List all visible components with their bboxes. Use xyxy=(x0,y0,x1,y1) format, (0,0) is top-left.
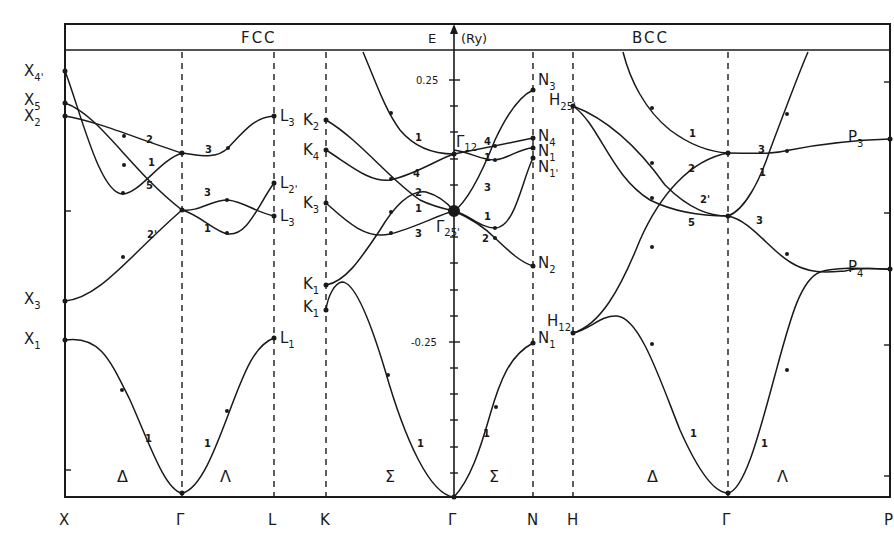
svg-text:Δ: Δ xyxy=(647,467,658,486)
fcc-x-labels: X4' X5 X2 X3 X1 xyxy=(24,62,43,351)
svg-text:3: 3 xyxy=(756,215,763,226)
svg-text:1: 1 xyxy=(690,428,697,439)
energy-axis xyxy=(65,24,890,497)
svg-text:2: 2 xyxy=(482,233,489,244)
svg-text:Γ25': Γ25' xyxy=(436,218,460,238)
fcc-bands xyxy=(65,52,454,497)
svg-text:K2: K2 xyxy=(303,111,319,132)
svg-text:2: 2 xyxy=(688,163,695,174)
svg-text:1: 1 xyxy=(689,128,696,139)
svg-text:2': 2' xyxy=(700,194,710,205)
svg-text:3: 3 xyxy=(484,182,491,193)
svg-text:L1: L1 xyxy=(280,329,295,350)
svg-text:1: 1 xyxy=(484,152,491,163)
svg-text:N: N xyxy=(527,511,538,529)
svg-text:P4: P4 xyxy=(848,258,863,279)
direction-symbols: Δ Λ Σ Σ Δ Λ xyxy=(117,467,788,486)
svg-text:4: 4 xyxy=(413,168,420,179)
svg-text:L2': L2' xyxy=(280,174,297,195)
svg-text:2: 2 xyxy=(415,187,422,198)
tick-label-pos: 0.25 xyxy=(416,75,438,86)
svg-text:1: 1 xyxy=(483,428,490,439)
svg-text:2': 2' xyxy=(147,229,157,240)
svg-text:3: 3 xyxy=(205,144,212,155)
svg-text:5: 5 xyxy=(146,180,153,191)
svg-text:N3: N3 xyxy=(538,71,556,92)
svg-text:Γ: Γ xyxy=(448,511,457,529)
svg-text:H12: H12 xyxy=(547,312,571,333)
symmetry-lines xyxy=(182,52,728,497)
svg-text:N1: N1 xyxy=(538,329,556,350)
svg-text:1: 1 xyxy=(761,438,768,449)
svg-text:1: 1 xyxy=(148,157,155,168)
tick-label-neg: -0.25 xyxy=(411,337,437,348)
svg-text:2: 2 xyxy=(146,134,153,145)
energy-unit-label: (Ry) xyxy=(461,31,487,46)
band-indices: 2 1 5 2' 1 3 3 1 1 1 4 2 1 3 1 4 1 3 1 2… xyxy=(145,128,768,449)
svg-text:N2: N2 xyxy=(538,254,556,275)
svg-text:X4': X4' xyxy=(24,62,43,83)
svg-text:Γ12: Γ12 xyxy=(456,133,477,153)
svg-text:1: 1 xyxy=(204,438,211,449)
svg-text:K: K xyxy=(320,511,331,529)
svg-text:K1: K1 xyxy=(303,298,319,319)
svg-text:3: 3 xyxy=(204,187,211,198)
k-point-labels: X Γ L K Γ N H Γ P xyxy=(59,511,893,529)
fcc-l-labels: L3 L2' L3 L1 xyxy=(280,107,297,350)
svg-text:3: 3 xyxy=(415,228,422,239)
frame xyxy=(65,24,890,497)
svg-text:H25': H25' xyxy=(549,91,576,112)
svg-text:1: 1 xyxy=(145,433,152,444)
svg-text:Σ: Σ xyxy=(489,467,499,486)
svg-text:K3: K3 xyxy=(303,194,319,215)
svg-text:Γ: Γ xyxy=(176,511,185,529)
bcc-p-labels: P3 P4 xyxy=(848,128,863,279)
svg-text:1: 1 xyxy=(484,211,491,222)
svg-text:1: 1 xyxy=(204,223,211,234)
svg-text:K1: K1 xyxy=(303,275,319,296)
bcc-bands xyxy=(454,52,890,497)
svg-text:Γ: Γ xyxy=(722,511,731,529)
svg-text:Λ: Λ xyxy=(220,467,231,486)
svg-text:Σ: Σ xyxy=(385,467,395,486)
fcc-title: FCC xyxy=(241,29,277,47)
svg-text:P: P xyxy=(884,511,893,529)
bcc-n-labels: N3 N4 N1 N1' N2 N1 xyxy=(538,71,558,350)
svg-text:3: 3 xyxy=(758,144,765,155)
svg-text:1: 1 xyxy=(417,438,424,449)
svg-text:X1: X1 xyxy=(24,330,41,351)
svg-text:5: 5 xyxy=(688,217,695,228)
svg-text:K4: K4 xyxy=(303,141,319,162)
svg-text:1: 1 xyxy=(415,132,422,143)
fcc-k-labels: K2 K4 K3 K1 K1 xyxy=(303,111,319,319)
bcc-title: BCC xyxy=(632,29,669,47)
bcc-h-labels: H25' H12 xyxy=(547,91,576,333)
svg-text:1: 1 xyxy=(759,167,766,178)
svg-text:P3: P3 xyxy=(848,128,863,149)
svg-text:L3: L3 xyxy=(280,207,295,228)
svg-text:L3: L3 xyxy=(280,107,295,128)
axis-arrow-icon xyxy=(450,24,458,34)
band-structure-diagram: FCC BCC E (Ry) 0.25 xyxy=(0,0,894,557)
svg-text:H: H xyxy=(567,511,578,529)
band-dots xyxy=(63,69,893,500)
svg-text:X3: X3 xyxy=(24,290,41,311)
svg-text:X: X xyxy=(59,511,69,529)
energy-axis-label: E xyxy=(428,31,436,46)
svg-text:Λ: Λ xyxy=(777,467,788,486)
svg-text:1: 1 xyxy=(415,203,422,214)
svg-text:L: L xyxy=(268,511,277,529)
svg-text:Δ: Δ xyxy=(117,467,128,486)
svg-text:4: 4 xyxy=(484,136,491,147)
